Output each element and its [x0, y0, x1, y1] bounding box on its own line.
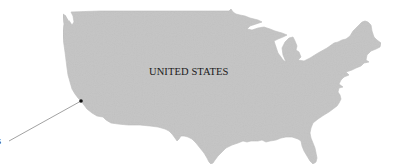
location-marker [79, 99, 83, 103]
map-figure: UNITED STATES s [0, 0, 397, 166]
callout-label: s [0, 135, 1, 146]
us-map [0, 0, 397, 166]
callout-line [9, 101, 81, 141]
us-landmass [63, 9, 381, 164]
country-label: UNITED STATES [149, 66, 229, 77]
